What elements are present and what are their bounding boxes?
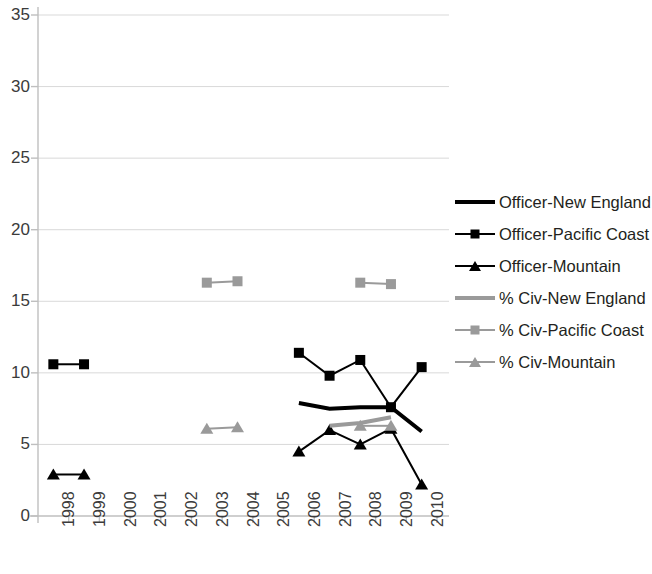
x-axis-tick-label: 2007 [338,491,354,527]
x-axis-tick-label: 1998 [61,491,77,527]
data-point-square [202,278,212,288]
data-point-square [417,362,427,372]
y-axis-tick-label: 25 [2,149,30,166]
x-axis-tick-label: 2003 [215,491,231,527]
data-point-square [48,359,58,369]
x-axis-tick-label: 2002 [184,491,200,527]
x-axis-tick-label: 2010 [430,491,446,527]
x-axis-tick-label: 2009 [399,491,415,527]
y-axis-tick-label: 30 [2,78,30,95]
legend-key-black-line-triangle-icon [455,257,495,275]
line-chart: 05101520253035 1998199920002001200220032… [0,0,652,574]
data-point-square [355,355,365,365]
data-point-triangle [415,479,428,490]
series-line [299,429,422,485]
x-axis-tick-label: 2006 [307,491,323,527]
legend-key-black-line-square-icon [455,225,495,243]
data-point-square [355,278,365,288]
legend-label: % Civ-Pacific Coast [499,322,644,339]
x-axis-tick-label: 2000 [123,491,139,527]
chart-legend: Officer-New EnglandOfficer-Pacific Coast… [455,186,651,378]
y-axis-tick-label: 15 [2,292,30,309]
legend-item: Officer-Mountain [455,250,651,282]
series-line [330,417,391,426]
legend-key-gray-line-square-icon [455,321,495,339]
legend-key-thick-gray-line-icon [455,289,495,307]
y-axis-tick-label: 35 [2,6,30,23]
data-point-square [386,279,396,289]
legend-item: % Civ-Pacific Coast [455,314,651,346]
y-axis-tick-label: 0 [2,507,30,524]
legend-label: Officer-Pacific Coast [499,226,649,243]
legend-item: Officer-New England [455,186,651,218]
x-axis-tick-label: 2004 [246,491,262,527]
legend-item: % Civ-Mountain [455,346,651,378]
x-axis-tick-label: 2001 [153,491,169,527]
legend-label: Officer-New England [499,194,651,211]
legend-key-gray-line-triangle-icon [455,353,495,371]
legend-label: % Civ-New England [499,290,646,307]
legend-key-thick-black-line-icon [455,193,495,211]
x-axis-tick-label: 1999 [92,491,108,527]
legend-label: % Civ-Mountain [499,354,615,371]
y-axis-tick-label: 10 [2,364,30,381]
x-axis-tick-label: 2008 [368,491,384,527]
series-line [207,427,238,428]
legend-item: Officer-Pacific Coast [455,218,651,250]
y-axis-tick-label: 20 [2,221,30,238]
y-axis-tick-label: 5 [2,435,30,452]
x-axis-tick-label: 2005 [276,491,292,527]
data-point-square [294,348,304,358]
legend-item: % Civ-New England [455,282,651,314]
data-point-square [79,359,89,369]
legend-label: Officer-Mountain [499,258,621,275]
data-point-square [325,371,335,381]
data-point-square [233,276,243,286]
